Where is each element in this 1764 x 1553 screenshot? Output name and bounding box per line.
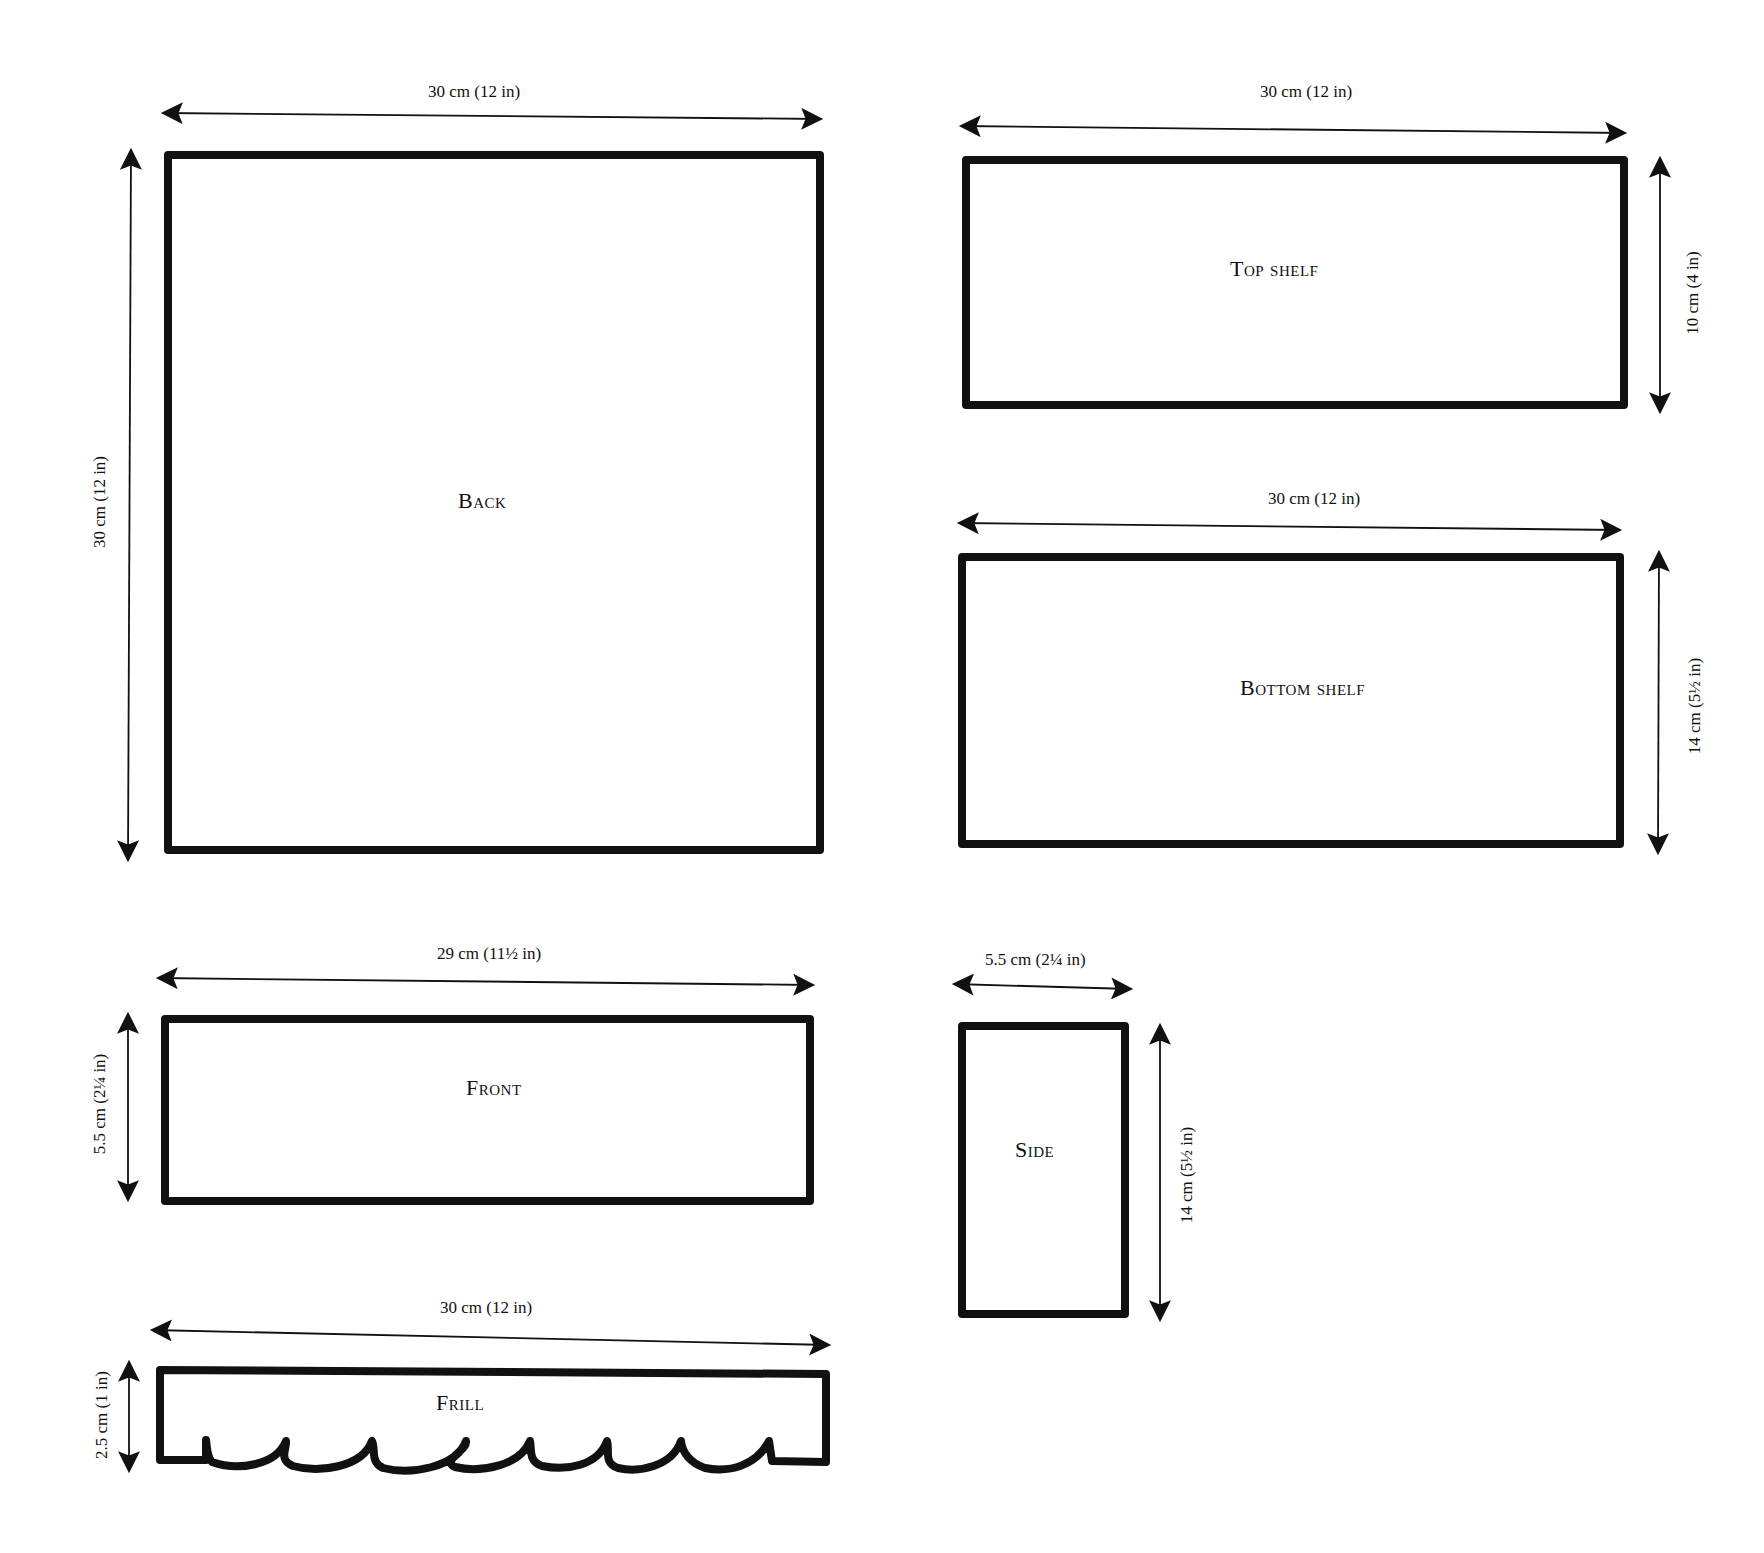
top-shelf-width-arrow — [961, 126, 1625, 133]
pattern-diagram — [0, 0, 1764, 1553]
front-title: Front — [466, 1075, 522, 1101]
side-width-label: 5.5 cm (2¼ in) — [985, 950, 1086, 970]
back-height-arrow — [128, 150, 131, 860]
frill-title: Frill — [436, 1390, 484, 1416]
bottom-shelf-title: Bottom shelf — [1240, 675, 1365, 701]
piece-side — [954, 984, 1160, 1320]
bottom-shelf-height-arrow — [1658, 552, 1659, 853]
back-height-label: 30 cm (12 in) — [90, 442, 110, 562]
piece-back — [128, 113, 821, 860]
top-shelf-height-label: 10 cm (4 in) — [1683, 238, 1703, 348]
back-width-arrow — [163, 113, 821, 119]
side-title: Side — [1015, 1137, 1054, 1163]
back-width-label: 30 cm (12 in) — [428, 82, 520, 102]
bottom-shelf-width-label: 30 cm (12 in) — [1268, 489, 1360, 509]
bottom-shelf-height-label: 14 cm (5½ in) — [1685, 641, 1705, 771]
frill-width-arrow — [152, 1330, 829, 1345]
top-shelf-width-label: 30 cm (12 in) — [1260, 82, 1352, 102]
side-height-label: 14 cm (5½ in) — [1177, 1110, 1197, 1240]
side-width-arrow — [954, 984, 1131, 989]
bottom-shelf-width-arrow — [959, 523, 1620, 530]
front-height-label: 5.5 cm (2¼ in) — [90, 1040, 110, 1168]
back-title: Back — [458, 488, 506, 514]
side-outline — [962, 1026, 1125, 1314]
frill-height-label: 2.5 cm (1 in) — [92, 1359, 112, 1471]
frill-width-label: 30 cm (12 in) — [440, 1298, 532, 1318]
frill-outline — [160, 1370, 826, 1471]
front-width-label: 29 cm (11½ in) — [437, 944, 541, 964]
front-width-arrow — [158, 978, 813, 985]
front-outline — [165, 1019, 810, 1201]
top-shelf-title: Top shelf — [1230, 256, 1318, 282]
top-shelf-outline — [966, 160, 1624, 405]
